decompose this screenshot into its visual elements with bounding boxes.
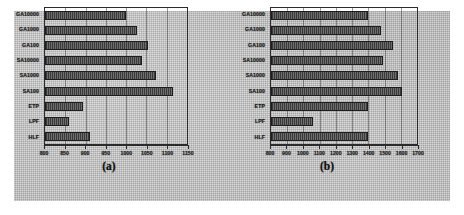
- x-axis-tick-label: 1600: [396, 150, 408, 156]
- category-label: GA10000: [218, 10, 268, 19]
- bar-row: [271, 102, 417, 111]
- bar: [271, 56, 383, 65]
- bar: [45, 11, 126, 20]
- x-axis-tick: [286, 145, 287, 149]
- category-label: LPF: [218, 117, 268, 126]
- x-axis-tick-label: 900: [282, 150, 291, 156]
- x-axis-a: 8008509009501000105011001150: [44, 145, 188, 161]
- bar: [271, 102, 368, 111]
- bar-row: [45, 117, 187, 126]
- x-axis-tick: [167, 145, 168, 149]
- bar-row: [45, 102, 187, 111]
- x-axis-tick: [106, 145, 107, 149]
- x-axis-tick: [336, 145, 337, 149]
- x-axis-tick: [270, 145, 271, 149]
- bar: [271, 41, 393, 50]
- x-axis-b: 80090010001100120013001400150016001700: [270, 145, 418, 161]
- subcaption-b: (b): [218, 160, 436, 172]
- x-axis-tick: [65, 145, 66, 149]
- x-axis-line-b: [270, 145, 418, 146]
- x-axis-tick-label: 1100: [162, 150, 173, 156]
- x-axis-line-a: [44, 145, 188, 146]
- x-axis-tick: [418, 145, 419, 149]
- bar-rows-a: [45, 8, 187, 144]
- bar: [271, 26, 381, 35]
- bar-row: [45, 132, 187, 141]
- x-axis-tick: [126, 145, 127, 149]
- bar-row: [45, 56, 187, 65]
- figure-container: GA10000GA1000GA100SA10000SA1000SA100ETPL…: [0, 0, 464, 215]
- bar: [271, 117, 313, 126]
- x-axis-tick-label: 1700: [412, 150, 424, 156]
- x-axis-tick: [369, 145, 370, 149]
- x-axis-tick-label: 1200: [330, 150, 342, 156]
- category-label: GA100: [0, 41, 42, 50]
- bar: [45, 117, 69, 126]
- bar-row: [271, 71, 417, 80]
- x-axis-tick-label: 1400: [363, 150, 375, 156]
- bar-row: [271, 26, 417, 35]
- bar-row: [271, 41, 417, 50]
- x-axis-tick-label: 900: [81, 150, 90, 156]
- bar: [45, 26, 137, 35]
- plot-wrap-b: [270, 7, 418, 145]
- bar: [45, 41, 148, 50]
- bar-row: [45, 11, 187, 20]
- bar: [45, 56, 142, 65]
- bar: [45, 87, 173, 96]
- bar-row: [45, 41, 187, 50]
- x-axis-tick-label: 1500: [379, 150, 391, 156]
- bar: [271, 71, 398, 80]
- bar-row: [271, 11, 417, 20]
- category-label: ETP: [0, 102, 42, 111]
- bar-row: [45, 87, 187, 96]
- bar-row: [271, 56, 417, 65]
- x-axis-tick-label: 1100: [314, 150, 325, 156]
- subcaption-a: (a): [0, 160, 218, 172]
- category-label: SA1000: [218, 71, 268, 80]
- x-axis-tick: [319, 145, 320, 149]
- x-axis-tick-label: 1300: [346, 150, 358, 156]
- category-label: SA10000: [0, 56, 42, 65]
- x-axis-tick: [188, 145, 189, 149]
- x-axis-tick-label: 1000: [297, 150, 309, 156]
- chart-panel-b: GA10000GA1000GA100SA10000SA1000SA100ETPL…: [218, 0, 436, 190]
- x-axis-tick: [352, 145, 353, 149]
- plot-area-a: [44, 7, 188, 145]
- bar: [45, 71, 156, 80]
- x-axis-tick-label: 800: [266, 150, 275, 156]
- category-axis-labels-a: GA10000GA1000GA100SA10000SA1000SA100ETPL…: [0, 7, 42, 145]
- bar: [45, 102, 83, 111]
- x-axis-tick: [85, 145, 86, 149]
- category-label: HLF: [0, 133, 42, 142]
- bar-row: [45, 71, 187, 80]
- x-axis-tick-label: 800: [40, 150, 49, 156]
- category-label: GA10000: [0, 10, 42, 19]
- category-label: SA100: [0, 87, 42, 96]
- plot-wrap-a: [44, 7, 188, 145]
- bar-rows-b: [271, 8, 417, 144]
- bar: [271, 87, 402, 96]
- category-label: GA1000: [0, 25, 42, 34]
- bar: [271, 132, 368, 141]
- x-axis-tick-label: 850: [60, 150, 69, 156]
- chart-panel-a: GA10000GA1000GA100SA10000SA1000SA100ETPL…: [0, 0, 218, 190]
- category-label: ETP: [218, 102, 268, 111]
- x-axis-tick-label: 1150: [182, 150, 193, 156]
- x-axis-tick: [303, 145, 304, 149]
- x-axis-tick: [147, 145, 148, 149]
- category-label: HLF: [218, 133, 268, 142]
- bar-row: [45, 26, 187, 35]
- category-label: SA100: [218, 87, 268, 96]
- category-label: GA1000: [218, 25, 268, 34]
- x-axis-tick-label: 950: [101, 150, 110, 156]
- plot-area-b: [270, 7, 418, 145]
- x-axis-tick: [402, 145, 403, 149]
- x-axis-tick: [44, 145, 45, 149]
- bar: [271, 11, 368, 20]
- bar-row: [271, 87, 417, 96]
- bar-row: [271, 117, 417, 126]
- category-label: SA1000: [0, 71, 42, 80]
- category-label: SA10000: [218, 56, 268, 65]
- category-label: LPF: [0, 117, 42, 126]
